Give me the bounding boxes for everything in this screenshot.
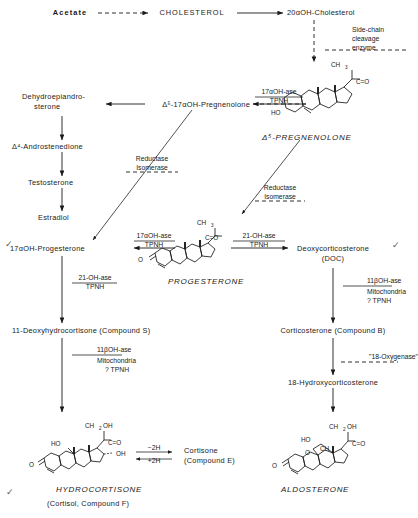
aldosterone-o-text: O bbox=[272, 462, 277, 469]
pregnenolone-co-text: C=O bbox=[356, 78, 369, 85]
pregnenolone-ho-text: HO bbox=[271, 109, 281, 116]
node-17oh-progesterone: 17αOH-Progesterone bbox=[10, 244, 85, 254]
checkmark-doc: ✓ bbox=[392, 240, 400, 250]
structure-hydrocortisone: CH 2 OH C=O OH HO O bbox=[29, 422, 126, 473]
node-aldosterone-label: ALDOSTERONE bbox=[281, 485, 349, 495]
aldosterone-oring-text: O bbox=[305, 449, 310, 456]
enzyme-18-oxygenase: "18-Oxygenase" bbox=[369, 352, 418, 361]
enzyme-11bohase-right: 11βOH-ase Mitochondria ? TPNH bbox=[367, 276, 406, 306]
node-cholesterol: CHOLESTEROL bbox=[160, 8, 225, 18]
node-doc: Deoxycorticosterone (DOC) bbox=[297, 244, 369, 263]
svg-text:2: 2 bbox=[99, 426, 102, 431]
svg-text:3: 3 bbox=[211, 223, 214, 228]
progesterone-ch3-text: CH bbox=[197, 219, 207, 226]
aldosterone-ho-text: HO bbox=[301, 436, 311, 443]
node-corticosterone: Corticosterone (Compound B) bbox=[281, 326, 386, 336]
enzyme-21ohase-right: 21-OH-ase TPNH bbox=[242, 231, 275, 249]
hydrocortisone-co-text: C=O bbox=[108, 439, 121, 446]
enzyme-17ohase-top: 17αOH-ase TPNH bbox=[262, 87, 297, 105]
aldosterone-ch-text: CH bbox=[320, 445, 330, 452]
node-pregnenolone-label: Δ⁵-PREGNENOLONE bbox=[262, 133, 351, 143]
hydrocortisone-o-text: O bbox=[29, 461, 34, 468]
svg-text:3: 3 bbox=[345, 65, 348, 70]
aldosterone-ch2oh-text: CH bbox=[329, 423, 339, 430]
node-20oh-cholesterol: 20αOH-Cholesterol bbox=[287, 8, 355, 18]
pregnenolone-ch3-text: CH bbox=[331, 61, 341, 68]
enzyme-17ohase-mid: 17αOH-ase TPNH bbox=[137, 231, 172, 249]
enzyme-11bohase-left: 11βOH-ase Mitochondria ? TPNH bbox=[97, 345, 136, 375]
node-cortisone: Cortisone (Compound E) bbox=[184, 446, 235, 465]
arrow-pregnenolone-to-progesterone bbox=[242, 140, 300, 214]
hydrocortisone-oh-side-text: OH bbox=[116, 450, 126, 457]
checkmark-17ohprogesterone: ✓ bbox=[5, 239, 13, 249]
aldosterone-co-text: C=O bbox=[352, 440, 365, 447]
node-18-hydroxycorticosterone: 18-Hydroxycorticosterone bbox=[288, 378, 378, 388]
hydrocortisone-ho-text: HO bbox=[51, 440, 61, 447]
enzyme-21ohase-left: 21-OH-ase TPNH bbox=[78, 273, 111, 291]
progesterone-o-text: O bbox=[138, 256, 143, 263]
node-compound-s: 11-Deoxyhydrocortisone (Compound S) bbox=[12, 326, 150, 336]
hydrocortisone-ch2oh-text: CH bbox=[85, 422, 95, 429]
node-dehydroepiandrosterone: Dehydroepiandro- sterone bbox=[22, 92, 85, 111]
structure-aldosterone: CH 2 OH C=O HO CH O O bbox=[272, 423, 365, 474]
enzyme-reductase-isomerase-right: Reductase Isomerase bbox=[264, 183, 297, 201]
label-plus-2h: +2H bbox=[148, 456, 161, 465]
node-progesterone-label: PROGESTERONE bbox=[168, 277, 244, 287]
progesterone-co-text: C=O bbox=[205, 234, 218, 241]
label-minus-2h: −2H bbox=[148, 443, 161, 452]
svg-text:OH: OH bbox=[347, 423, 357, 430]
checkmark-hydrocortisone: ✓ bbox=[6, 487, 14, 497]
enzyme-side-chain-cleavage: Side-chain cleavage enzyme bbox=[352, 25, 384, 53]
svg-text:OH: OH bbox=[103, 422, 113, 429]
node-acetate: Acetate bbox=[53, 8, 87, 18]
node-hydrocortisone-sublabel: (Cortisol, Compound F) bbox=[47, 499, 129, 509]
svg-text:2: 2 bbox=[343, 427, 346, 432]
node-androstenedione: Δ⁴-Androstenedione bbox=[12, 142, 83, 152]
arrow-17ohpreg-to-17ohprogesterone bbox=[93, 110, 192, 240]
node-hydrocortisone-label: HYDROCORTISONE bbox=[56, 485, 142, 495]
enzyme-reductase-isomerase-left: Reductase Isomerase bbox=[136, 154, 169, 172]
node-testosterone: Testosterone bbox=[28, 178, 73, 188]
node-17oh-pregnenolone: Δ⁵-17αOH-Pregnenolone bbox=[162, 100, 250, 110]
node-estradiol: Estradiol bbox=[38, 213, 69, 223]
